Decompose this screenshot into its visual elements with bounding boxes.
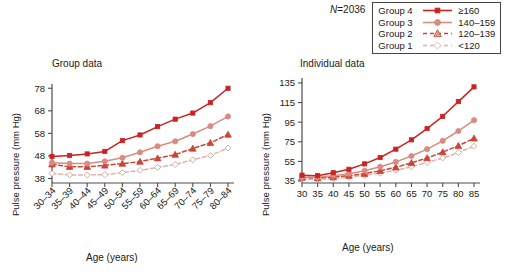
x-tick-label: 60: [391, 188, 402, 199]
legend-item-value: 120–139: [458, 28, 495, 39]
square-marker: [300, 173, 304, 177]
chart-panel-individual-data: Individual data Pulse pressure (mm Hg) A…: [252, 56, 507, 274]
circle-marker: [409, 153, 414, 158]
circle-marker: [155, 144, 160, 149]
data-series-group-4: [50, 86, 230, 158]
y-tick-label: 58: [34, 128, 45, 139]
diamond-marker: [102, 172, 108, 178]
square-marker: [103, 149, 107, 153]
diamond-marker: [49, 171, 55, 177]
triangle-marker: [225, 131, 232, 137]
diamond-marker: [471, 143, 477, 149]
square-marker: [50, 154, 54, 158]
square-marker: [316, 174, 320, 178]
diamond-marker: [225, 145, 231, 151]
legend-item: Group 4≥160: [378, 5, 495, 17]
x-tick-label: 80: [453, 188, 464, 199]
square-marker: [441, 114, 445, 118]
diamond-marker: [434, 42, 441, 49]
y-tick-label: 78: [34, 83, 45, 94]
x-tick-label: 65: [406, 188, 417, 199]
diamond-marker: [172, 162, 178, 168]
diamond-marker: [190, 157, 196, 163]
diamond-marker: [207, 152, 213, 158]
circle-marker: [471, 118, 476, 123]
square-marker: [378, 155, 382, 159]
legend-item: Group 2120–139: [378, 28, 495, 40]
square-marker: [362, 162, 366, 166]
square-marker: [208, 101, 212, 105]
series-line: [302, 87, 474, 176]
triangle-marker: [471, 135, 478, 141]
y-tick-label: 38: [34, 173, 45, 184]
circle-marker: [85, 161, 90, 166]
y-tick-label: 95: [284, 117, 295, 128]
y-tick-label: 55: [284, 156, 295, 167]
diamond-marker: [440, 155, 446, 161]
chart-panel-group-data: Group data Pulse pressure (mm Hg) Age (y…: [0, 56, 250, 274]
x-tick-label: 40: [328, 188, 339, 199]
circle-marker: [440, 138, 445, 143]
x-tick-label: 50: [359, 188, 370, 199]
y-tick-label: 35: [284, 175, 295, 186]
square-marker: [331, 171, 335, 175]
square-marker: [347, 167, 351, 171]
plot-area-individual-data: 35557595115135303540455055606570758085: [252, 56, 507, 274]
legend-item-value: ≥160: [458, 5, 479, 16]
axis-lines: [302, 78, 480, 183]
square-marker: [120, 138, 124, 142]
diamond-marker: [455, 150, 461, 156]
circle-marker: [120, 155, 125, 160]
sample-size-value: =2036: [337, 4, 365, 15]
legend: N=2036 Group 4≥160Group 3140–159Group 21…: [330, 2, 501, 54]
diamond-marker: [84, 172, 90, 178]
circle-marker: [67, 161, 72, 166]
legend-item: Group 1<120: [378, 40, 495, 52]
legend-item: Group 3140–159: [378, 17, 495, 29]
legend-item-value: 140–159: [458, 17, 495, 28]
square-marker: [173, 117, 177, 121]
circle-marker: [49, 160, 54, 165]
square-marker: [435, 8, 440, 13]
circle-marker: [362, 168, 367, 173]
y-tick-label: 135: [279, 77, 295, 88]
legend-marker-sample: [422, 28, 453, 39]
legend-item-name: Group 3: [378, 17, 422, 28]
square-marker: [138, 133, 142, 137]
sample-size-label: N=2036: [330, 4, 365, 15]
y-tick-label: 115: [280, 97, 295, 108]
circle-marker: [208, 124, 213, 129]
square-marker: [68, 153, 72, 157]
series-line: [52, 116, 228, 163]
legend-marker-sample: [422, 40, 453, 51]
square-marker: [456, 99, 460, 103]
square-marker: [191, 111, 195, 115]
triangle-marker: [207, 140, 214, 146]
legend-item-name: Group 1: [378, 40, 422, 51]
diamond-marker: [155, 164, 161, 170]
square-marker: [472, 85, 476, 89]
diamond-marker: [119, 170, 125, 176]
square-marker: [226, 86, 230, 90]
x-tick-label: 75: [437, 188, 448, 199]
legend-item-value: <120: [458, 40, 479, 51]
circle-marker: [435, 19, 441, 25]
legend-box: Group 4≥160Group 3140–159Group 2120–139G…: [372, 2, 501, 54]
x-tick-label: 85: [469, 188, 480, 199]
x-tick-label: 45: [344, 188, 355, 199]
square-marker: [425, 126, 429, 130]
x-tick-label: 30: [297, 188, 308, 199]
circle-marker: [456, 128, 461, 133]
circle-marker: [190, 131, 195, 136]
y-tick-label: 75: [284, 136, 295, 147]
circle-marker: [137, 150, 142, 155]
legend-marker-sample: [422, 5, 453, 16]
square-marker: [394, 147, 398, 151]
x-tick-label: 35: [312, 188, 323, 199]
y-tick-label: 68: [34, 105, 45, 116]
diamond-marker: [67, 172, 73, 178]
square-marker: [156, 125, 160, 129]
circle-marker: [225, 114, 230, 119]
square-marker: [85, 152, 89, 156]
diamond-marker: [137, 167, 143, 173]
